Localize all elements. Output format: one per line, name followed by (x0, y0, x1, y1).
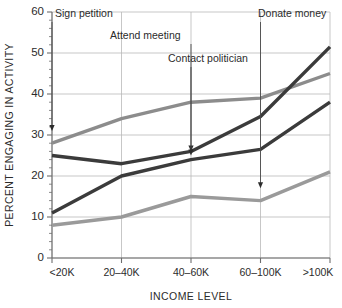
x-axis: <20K20–40K40–60K60–100K>100K (50, 258, 334, 278)
y-tick-label: 10 (31, 210, 44, 222)
annotation-label: Sign petition (55, 7, 113, 19)
y-axis-title: PERCENT ENGAGING IN ACTIVITY (3, 43, 15, 227)
annotation-label: Attend meeting (110, 29, 181, 41)
x-tick-label: 40–60K (173, 266, 209, 278)
y-tick-label: 0 (38, 251, 44, 263)
y-tick-label: 50 (31, 46, 44, 58)
x-axis-tick-labels: <20K20–40K40–60K60–100K>100K (50, 266, 334, 278)
y-axis: 0102030405060 (31, 5, 52, 263)
x-tick-label: 20–40K (103, 266, 139, 278)
annotation-label: Donate money (258, 7, 327, 19)
y-tick-label: 30 (31, 128, 44, 140)
x-tick-label: >100K (303, 266, 334, 278)
x-tick-label: 60–100K (239, 266, 281, 278)
line-chart: 0102030405060 <20K20–40K40–60K60–100K>10… (0, 0, 342, 308)
y-axis-tick-labels: 0102030405060 (31, 5, 44, 263)
y-tick-label: 20 (31, 169, 44, 181)
y-tick-label: 40 (31, 87, 44, 99)
chart-container: 0102030405060 <20K20–40K40–60K60–100K>10… (0, 0, 342, 308)
x-axis-ticks (52, 258, 330, 263)
x-tick-label: <20K (50, 266, 75, 278)
annotation-arrow-head (49, 125, 54, 131)
annotation-arrow-head (258, 182, 263, 188)
y-tick-label: 60 (31, 5, 44, 17)
x-axis-title: INCOME LEVEL (150, 290, 232, 302)
y-axis-ticks (47, 12, 52, 258)
annotation-label: Contact politician (168, 52, 248, 64)
